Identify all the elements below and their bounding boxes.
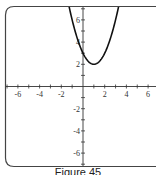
x-tick-label: 2 — [103, 90, 107, 99]
x-tick-label: 4 — [124, 90, 128, 99]
x-tick-label: -4 — [36, 90, 43, 99]
parabola-curve — [67, 0, 120, 64]
y-tick-label: -4 — [73, 127, 80, 136]
parabola-graph: -6-4-2246 -6-4-2246 — [0, 0, 156, 175]
y-tick-label: -2 — [73, 105, 80, 114]
x-tick-label: -2 — [58, 90, 65, 99]
figure-caption: Figure 45 — [0, 166, 156, 175]
y-tick-label: 6 — [76, 16, 80, 25]
x-axis-tick-labels: -6-4-2246 — [15, 90, 151, 99]
y-tick-label: 2 — [76, 60, 80, 69]
x-tick-label: -6 — [15, 90, 22, 99]
x-tick-label: 6 — [146, 90, 150, 99]
y-tick-label: -6 — [73, 149, 80, 158]
